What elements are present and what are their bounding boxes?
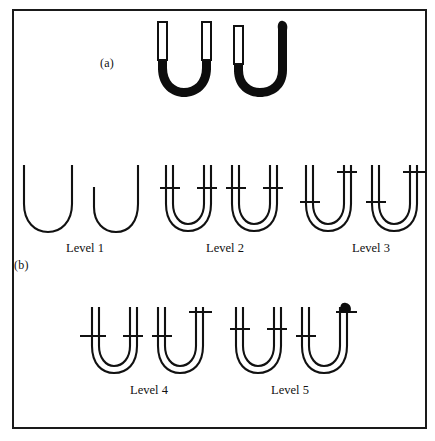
level-4-tube-2	[150, 302, 212, 382]
level-2-caption: Level 2	[190, 241, 260, 256]
level-2-tube-2	[224, 160, 286, 240]
panel-a-label: (a)	[100, 56, 114, 71]
level-3-tube-1	[298, 160, 360, 240]
level-5-tube-1	[228, 302, 290, 382]
figure-root: (a) (b) Level 1	[0, 0, 435, 441]
level-3-caption: Level 3	[336, 241, 406, 256]
level-1-tube-1	[18, 160, 80, 240]
level-3-tube-2	[364, 160, 426, 240]
level-5-caption: Level 5	[255, 383, 325, 398]
level-1-caption: Level 1	[50, 241, 120, 256]
level-4-caption: Level 4	[114, 383, 184, 398]
level-5-tube-2	[294, 302, 360, 382]
panel-a-manometer-right	[226, 18, 304, 100]
level-1-tube-2	[85, 160, 147, 240]
panel-a-manometer-left	[150, 18, 228, 100]
level-5-ink-blob	[340, 303, 351, 313]
level-2-tube-1	[158, 160, 220, 240]
level-4-tube-1	[84, 302, 146, 382]
panel-b-label: (b)	[14, 258, 29, 273]
